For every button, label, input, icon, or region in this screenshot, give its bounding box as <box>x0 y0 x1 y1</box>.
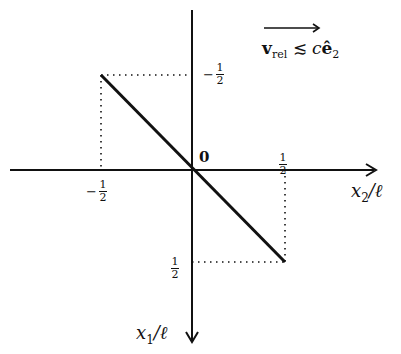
numerator: 1 <box>172 257 179 267</box>
x1-axis-label: x1/ℓ <box>136 322 167 347</box>
tick-h-neg-half: − 12 <box>86 180 107 203</box>
sub: 1 <box>146 333 154 347</box>
minus-sign: − <box>203 67 214 82</box>
minus-sign: − <box>86 184 97 199</box>
numerator: 1 <box>216 63 223 73</box>
origin-label: 0 <box>199 148 209 166</box>
c-symbol: c <box>312 38 322 58</box>
div: /ℓ <box>369 180 383 201</box>
var: x <box>351 180 361 201</box>
numerator: 1 <box>280 153 287 163</box>
var: x <box>136 322 146 343</box>
sub: 2 <box>361 191 369 205</box>
denominator: 2 <box>216 76 223 86</box>
div: /ℓ <box>154 322 168 343</box>
e-hat-symbol: ê <box>322 38 333 58</box>
numerator: 1 <box>99 180 106 190</box>
rel-subscript: rel <box>272 48 287 61</box>
velocity-relation: vrel ≲ cê2 <box>262 38 339 61</box>
lesssim-symbol: ≲ <box>293 38 307 58</box>
tick-v-neg-half: − 12 <box>203 63 224 86</box>
diagram-canvas <box>0 0 401 354</box>
tick-v-pos-half: 12 <box>171 250 179 280</box>
denominator: 2 <box>99 193 106 203</box>
v-symbol: v <box>262 38 272 58</box>
denominator: 2 <box>172 270 179 280</box>
e-subscript: 2 <box>332 48 339 61</box>
denominator: 2 <box>280 166 287 176</box>
tick-h-pos-half: 12 <box>279 146 287 176</box>
x2-axis-label: x2/ℓ <box>351 180 382 205</box>
